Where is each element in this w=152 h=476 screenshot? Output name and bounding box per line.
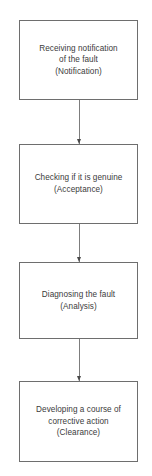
flowchart-node-clearance-label: Developing a course of corrective action…: [33, 404, 124, 439]
flowchart-node-notification[interactable]: Receiving notification of the fault (Not…: [19, 20, 138, 100]
flowchart-node-acceptance-label: Checking if it is genuine (Acceptance): [32, 172, 126, 195]
flowchart-node-acceptance[interactable]: Checking if it is genuine (Acceptance): [19, 144, 138, 224]
flowchart-node-analysis-label: Diagnosing the fault (Analysis): [39, 289, 118, 312]
fault-management-flowchart: Receiving notification of the fault (Not…: [0, 0, 152, 476]
flowchart-node-clearance[interactable]: Developing a course of corrective action…: [19, 381, 138, 462]
connector-notification-to-acceptance: [79, 100, 80, 144]
connector-analysis-to-clearance: [79, 339, 80, 381]
flowchart-node-analysis[interactable]: Diagnosing the fault (Analysis): [19, 262, 138, 339]
flowchart-node-notification-label: Receiving notification of the fault (Not…: [36, 43, 120, 78]
